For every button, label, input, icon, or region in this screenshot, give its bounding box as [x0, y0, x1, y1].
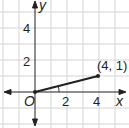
origin-label: O: [24, 93, 35, 109]
x-axis-label: x: [115, 93, 124, 109]
y-tick-4: 4: [23, 21, 30, 36]
y-axis-label: y: [38, 0, 47, 13]
y-tick-2: 2: [23, 54, 30, 69]
y-axis-down-arrow-icon: [33, 119, 38, 126]
coordinate-plane: 4 2 2 4 y x O (4, 1): [0, 0, 129, 128]
origin-point: [33, 90, 37, 94]
x-tick-2: 2: [62, 94, 69, 109]
angle-arc: [58, 86, 59, 92]
x-tick-4: 4: [93, 94, 100, 109]
endpoint-label: (4, 1): [97, 58, 127, 73]
endpoint-4-1: [96, 74, 100, 78]
y-axis-up-arrow-icon: [33, 1, 38, 8]
x-axis-left-arrow-icon: [4, 90, 11, 95]
